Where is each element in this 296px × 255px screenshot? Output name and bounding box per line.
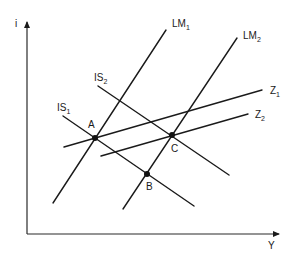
curve-label-z1: Z1	[270, 85, 280, 98]
point-label-a: A	[88, 119, 95, 130]
curve-label-is2: IS2	[94, 72, 107, 85]
curve-is2	[98, 86, 229, 175]
curve-lm1	[53, 30, 166, 203]
curve-label-is1: IS1	[57, 102, 70, 115]
curve-label-lm1: LM1	[172, 18, 190, 31]
point-label-b: B	[146, 181, 153, 192]
point-label-c: C	[171, 143, 178, 154]
curves: LM1LM2IS1IS2Z1Z2	[53, 18, 280, 209]
point-a	[92, 135, 98, 141]
curve-label-lm2: LM2	[243, 30, 261, 43]
x-axis-label: Y	[268, 240, 275, 251]
point-c	[169, 132, 175, 138]
is-lm-diagram: i Y LM1LM2IS1IS2Z1Z2 ABC	[0, 0, 296, 255]
curve-lm2	[123, 38, 237, 209]
curve-is1	[63, 116, 194, 206]
point-b	[144, 171, 150, 177]
curve-label-z2: Z2	[255, 109, 265, 122]
y-axis-label: i	[15, 18, 17, 29]
axes: i Y	[15, 18, 279, 251]
